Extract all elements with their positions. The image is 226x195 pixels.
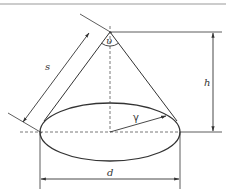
- slant-ext-top: [80, 14, 112, 33]
- cone-right-side: [110, 32, 177, 121]
- slant-dimension-arrow: [23, 33, 89, 122]
- slant-ext-bottom: [8, 113, 42, 133]
- cone-left-side: [44, 32, 110, 121]
- diameter-label: d: [107, 167, 113, 178]
- apex-angle-label: υ: [106, 35, 112, 46]
- radius-angle-label: γ: [133, 112, 139, 123]
- cone-diagram: υ s h d γ: [0, 0, 226, 195]
- slant-label: s: [45, 61, 50, 72]
- height-label: h: [204, 77, 210, 88]
